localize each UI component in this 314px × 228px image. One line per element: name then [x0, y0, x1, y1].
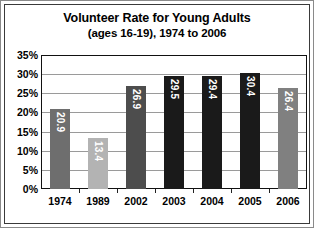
bar-value-label: 20.9 — [55, 112, 66, 132]
x-axis: 1974198920022003200420052006 — [41, 189, 307, 219]
x-axis-tick — [117, 189, 118, 193]
x-axis-tick — [231, 189, 232, 193]
x-tick-label: 1989 — [86, 195, 109, 207]
bar: 26.9 — [126, 86, 146, 189]
x-axis-tick — [269, 189, 270, 193]
bar-value-label: 26.4 — [283, 91, 294, 111]
chart-subtitle: (ages 16-19), 1974 to 2006 — [5, 26, 309, 41]
y-axis: 0%5%10%15%20%25%30%35% — [5, 55, 38, 189]
bar: 29.4 — [202, 76, 222, 189]
bar: 20.9 — [50, 109, 70, 189]
bar-value-label: 29.4 — [207, 79, 218, 99]
bar-value-label: 26.9 — [131, 89, 142, 109]
y-tick-label: 15% — [17, 126, 38, 138]
x-tick-label: 2004 — [200, 195, 223, 207]
bar: 30.4 — [240, 73, 260, 189]
chart-container: Volunteer Rate for Young Adults (ages 16… — [0, 0, 314, 228]
x-tick-label: 2005 — [238, 195, 261, 207]
x-tick-label: 2003 — [162, 195, 185, 207]
chart-title-block: Volunteer Rate for Young Adults (ages 16… — [5, 11, 309, 41]
bar: 29.5 — [164, 76, 184, 189]
x-axis-tick — [193, 189, 194, 193]
bar: 26.4 — [278, 88, 298, 189]
x-axis-tick — [79, 189, 80, 193]
y-tick-label: 25% — [17, 87, 38, 99]
y-tick-label: 0% — [23, 183, 38, 195]
plot-region: 20.913.426.929.529.430.426.4 — [41, 55, 307, 189]
x-tick-label: 2002 — [124, 195, 147, 207]
y-tick-label: 10% — [17, 145, 38, 157]
y-tick-label: 35% — [17, 49, 38, 61]
y-tick-label: 30% — [17, 68, 38, 80]
y-tick-label: 5% — [23, 164, 38, 176]
x-tick-label: 2006 — [276, 195, 299, 207]
bar-value-label: 30.4 — [245, 76, 256, 96]
y-tick-label: 20% — [17, 106, 38, 118]
chart-inner-border: Volunteer Rate for Young Adults (ages 16… — [4, 4, 310, 224]
bar-value-label: 29.5 — [169, 79, 180, 99]
chart-title: Volunteer Rate for Young Adults — [5, 11, 309, 26]
bar-value-label: 13.4 — [93, 141, 104, 161]
x-tick-label: 1974 — [48, 195, 71, 207]
x-axis-tick — [155, 189, 156, 193]
bars-layer: 20.913.426.929.529.430.426.4 — [41, 55, 307, 189]
bar: 13.4 — [88, 138, 108, 189]
